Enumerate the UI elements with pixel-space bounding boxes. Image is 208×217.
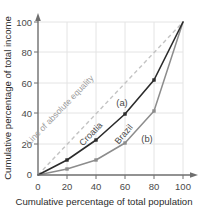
x-tick-label-0: 0 bbox=[35, 181, 40, 192]
y-tick-label-40: 40 bbox=[21, 108, 32, 119]
marker-a-label: (a) bbox=[116, 97, 127, 108]
x-tick-label-60: 60 bbox=[120, 181, 131, 192]
x-tick-label-40: 40 bbox=[91, 181, 102, 192]
y-tick-label-80: 80 bbox=[21, 47, 32, 58]
x-tick-label-80: 80 bbox=[149, 181, 160, 192]
x-tick-label-100: 100 bbox=[175, 181, 191, 192]
y-axis-arrow-icon bbox=[35, 13, 41, 21]
chart-canvas: 0 20 40 60 80 100 0 20 40 60 80 100 Cumu… bbox=[0, 0, 208, 217]
y-tick-label-60: 60 bbox=[21, 78, 32, 89]
x-axis-arrow-icon bbox=[190, 172, 198, 178]
marker-b-label: (b) bbox=[141, 133, 152, 144]
y-tick-label-0: 0 bbox=[27, 169, 32, 180]
x-axis-title: Cumulative percentage of total populatio… bbox=[15, 196, 192, 207]
x-tick-label-20: 20 bbox=[62, 181, 73, 192]
y-axis-title: Cumulative percentage of total income bbox=[2, 16, 13, 180]
lorenz-curve-chart: 0 20 40 60 80 100 0 20 40 60 80 100 Cumu… bbox=[0, 0, 208, 217]
y-tick-label-100: 100 bbox=[16, 17, 32, 28]
